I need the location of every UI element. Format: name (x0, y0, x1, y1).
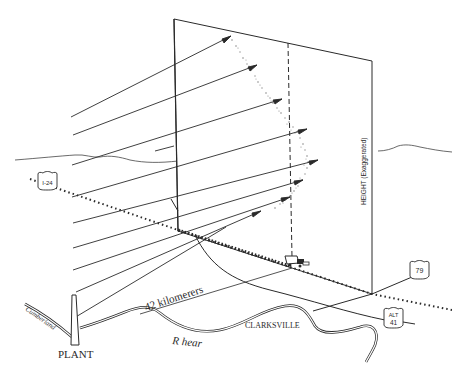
diagram-canvas: I-24 79 ALT 41 HEIGHT (Exaggerated) 42 k… (0, 0, 452, 379)
shield-i24: I-24 (38, 172, 57, 191)
distance-label: 42 kilomerers (143, 283, 205, 313)
cumberland-label: Cumberland (24, 305, 58, 332)
shield-alt41-top: ALT (389, 312, 399, 318)
shield-us79-label: 79 (416, 267, 424, 274)
plume-diagram: I-24 79 ALT 41 HEIGHT (Exaggerated) 42 k… (0, 0, 452, 379)
height-axis-label: HEIGHT (Exaggerated) (360, 138, 368, 205)
road-79-ext (372, 277, 412, 294)
shield-alt41: ALT 41 (384, 308, 403, 329)
shield-us79: 79 (410, 261, 429, 280)
plant-label: PLANT (58, 348, 94, 360)
road-79 (313, 294, 372, 311)
vertical-plane (174, 19, 372, 294)
smoke-stack (71, 295, 79, 345)
hills-left (15, 155, 178, 163)
shield-alt41-num: 41 (390, 319, 398, 326)
road-alt41 (403, 322, 415, 324)
hills-right (378, 145, 452, 152)
clarksville-label: CLARKSVILLE (245, 321, 300, 330)
shield-i24-label: I-24 (42, 180, 53, 186)
river (80, 306, 377, 362)
river-label: R hear (171, 334, 203, 349)
